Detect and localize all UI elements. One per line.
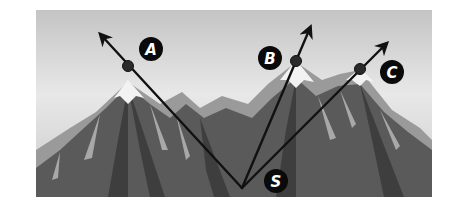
label-a-text: A xyxy=(144,41,157,59)
label-b-text: B xyxy=(264,50,275,68)
label-a: A xyxy=(139,37,163,61)
rays-diagram: ABCS xyxy=(0,0,466,214)
label-s: S xyxy=(264,169,288,193)
point-c xyxy=(355,64,366,75)
point-b xyxy=(291,56,302,67)
label-s-text: S xyxy=(271,173,282,191)
mountain-illustration xyxy=(36,10,432,197)
diagram-stage: ABCS xyxy=(0,0,466,214)
label-c: C xyxy=(380,60,404,84)
label-b: B xyxy=(258,46,282,70)
point-a xyxy=(123,61,134,72)
label-c-text: C xyxy=(386,64,397,82)
